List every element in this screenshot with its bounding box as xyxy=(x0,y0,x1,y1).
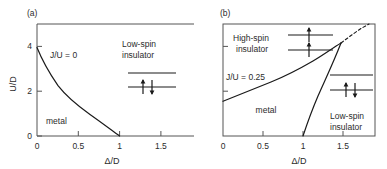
panel-b: (b) 0 0.5 1 1.5 Δ/D metal High-spin xyxy=(193,0,387,169)
panel-a-xtick-label-05: 0.5 xyxy=(72,141,84,151)
panel-b-plot: (b) 0 0.5 1 1.5 Δ/D metal High-spin xyxy=(193,0,387,169)
panel-b-annotation-ju: J/U = 0.25 xyxy=(226,72,265,82)
panel-b-xtick-label-05: 0.5 xyxy=(257,141,269,151)
panel-a-orbital-diagram-low-spin xyxy=(128,73,176,95)
panel-b-region-label-metal: metal xyxy=(256,105,277,115)
panel-b-xtick-label-1: 1 xyxy=(301,141,306,151)
panel-a-ylabel: U/D xyxy=(8,76,18,92)
panel-b-xtick-label-15: 1.5 xyxy=(337,141,349,151)
panel-b-xtick-label-0: 0 xyxy=(221,141,226,151)
panel-b-orbital-diagram-low-spin xyxy=(330,75,373,98)
panel-a-region-label-lowspin-1: Low-spin xyxy=(122,39,156,49)
panel-a-region-label-metal: metal xyxy=(46,116,67,126)
phase-diagram-figure: (a) 0 2 4 0 0.5 1 1.5 Δ/D U/D xyxy=(0,0,387,169)
panel-b-crossover-dashed xyxy=(341,24,369,43)
panel-a-plot: (a) 0 2 4 0 0.5 1 1.5 Δ/D U/D xyxy=(0,0,194,169)
panel-a-xlabel: Δ/D xyxy=(104,156,120,166)
panel-b-label: (b) xyxy=(220,8,231,18)
panel-a-ytick-label-2: 2 xyxy=(27,86,32,96)
panel-a-xtick-label-15: 1.5 xyxy=(155,141,167,151)
panel-b-region-label-lowspin-2: insulator xyxy=(330,122,362,132)
panel-b-region-label-highspin-2: insulator xyxy=(236,44,268,54)
panel-a-xtick-label-0: 0 xyxy=(35,141,40,151)
panel-a: (a) 0 2 4 0 0.5 1 1.5 Δ/D U/D xyxy=(0,0,194,169)
panel-b-xlabel: Δ/D xyxy=(291,156,307,166)
panel-a-ytick-label-4: 4 xyxy=(27,41,32,51)
panel-b-region-label-lowspin-1: Low-spin xyxy=(330,111,364,121)
panel-a-annotation-ju: J/U = 0 xyxy=(50,50,77,60)
panel-b-region-label-highspin-1: High-spin xyxy=(233,33,269,43)
panel-a-region-label-lowspin-2: insulator xyxy=(122,50,154,60)
panel-a-xtick-label-1: 1 xyxy=(117,141,122,151)
panel-a-ytick-label-0: 0 xyxy=(27,131,32,141)
panel-a-label: (a) xyxy=(27,8,38,18)
